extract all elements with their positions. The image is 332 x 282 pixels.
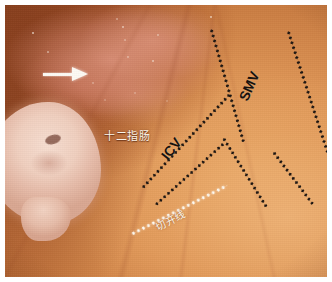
figure-frame: 十二指肠 ICV SMV 切开线 bbox=[0, 0, 332, 282]
surgical-photograph: 十二指肠 ICV SMV 切开线 bbox=[5, 5, 327, 277]
image-grain bbox=[5, 5, 327, 277]
